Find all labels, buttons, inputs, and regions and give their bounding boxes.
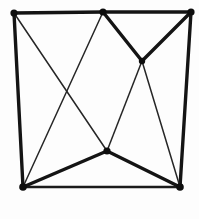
graph-vertex-bottom-left-corner (19, 183, 27, 191)
graph-vertex-top-middle (99, 8, 106, 15)
graph-edge-ci-br (142, 61, 180, 187)
graph-edge-tm-bl (23, 12, 103, 187)
graph-vertex-lower-center (103, 147, 110, 154)
graph-edge-tm-ci (103, 12, 142, 61)
graph-figure (0, 0, 199, 219)
graph-vertex-upper-interior (139, 58, 145, 64)
graph-vertex-top-right-corner (187, 8, 194, 15)
edge-layer (14, 12, 191, 187)
graph-edge-tl-bl (14, 13, 23, 187)
graph-edge-ci-cl (107, 61, 142, 151)
graph-edge-tr-br (180, 12, 191, 187)
graph-drawing-canvas (0, 0, 199, 219)
graph-edge-bl-cl (23, 151, 107, 187)
graph-vertex-bottom-right-corner (176, 183, 184, 191)
graph-vertex-top-left-corner (10, 9, 17, 16)
graph-edge-tr-ci (142, 12, 191, 61)
graph-edge-br-cl (107, 151, 180, 187)
graph-edge-tl-tm (14, 12, 103, 13)
